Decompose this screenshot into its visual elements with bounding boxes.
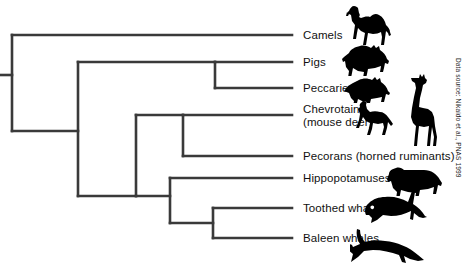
orca-silhouette — [360, 188, 428, 228]
cladogram-branches — [0, 0, 300, 277]
tip-label-hippopotamuses: Hippopotamuses — [303, 172, 391, 185]
tip-label-pigs: Pigs — [303, 56, 326, 69]
baleen-whale-silhouette — [350, 228, 430, 270]
tip-label-camels: Camels — [303, 29, 343, 42]
tip-label-camels-text: Camels — [303, 29, 343, 41]
tip-label-pigs-text: Pigs — [303, 56, 326, 68]
pig-silhouette — [340, 42, 392, 76]
giraffe-silhouette — [408, 73, 446, 157]
source-credit: Data source: Nikaido et al., PNAS 1999 — [455, 58, 462, 168]
phylogenetic-tree-figure: Camels Pigs Peccaries Chevrotains (mouse… — [0, 0, 462, 277]
chevrotain-silhouette — [355, 98, 397, 138]
tip-label-hippopotamuses-text: Hippopotamuses — [303, 172, 391, 184]
